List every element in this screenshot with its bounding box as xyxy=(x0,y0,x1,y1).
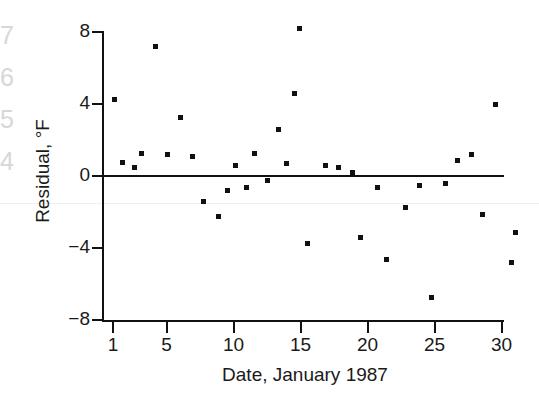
x-tick-label: 1 xyxy=(91,334,135,356)
data-point xyxy=(375,185,380,190)
data-point xyxy=(336,165,341,170)
data-point xyxy=(358,235,363,240)
data-point xyxy=(178,115,183,120)
y-axis-title-text: Residual, xyxy=(32,138,53,223)
data-point xyxy=(190,154,195,159)
data-point xyxy=(417,183,422,188)
data-point xyxy=(305,241,310,246)
data-point xyxy=(480,212,485,217)
y-axis-title-unit: °F xyxy=(32,119,53,138)
x-tick-mark xyxy=(501,322,503,333)
data-point xyxy=(233,163,238,168)
x-tick-label: 5 xyxy=(145,334,189,356)
y-tick-label: −8 xyxy=(50,308,90,330)
y-tick-label: 4 xyxy=(50,92,90,114)
x-tick-mark xyxy=(166,322,168,333)
x-tick-label: 25 xyxy=(413,334,457,356)
x-axis-title: Date, January 1987 xyxy=(140,364,470,386)
plot-area: 840−4−8 151015202530 Date, January 1987 … xyxy=(0,0,539,404)
x-tick-mark xyxy=(112,322,114,333)
data-point xyxy=(244,185,249,190)
y-tick-mark xyxy=(92,103,103,105)
y-tick-mark xyxy=(92,175,103,177)
x-tick-mark xyxy=(300,322,302,333)
zero-reference-line xyxy=(102,175,504,177)
data-point xyxy=(276,127,281,132)
data-point xyxy=(265,178,270,183)
data-point xyxy=(112,97,117,102)
data-point xyxy=(153,44,158,49)
x-tick-mark xyxy=(434,322,436,333)
y-tick-label: −4 xyxy=(50,236,90,258)
data-point xyxy=(403,205,408,210)
data-point xyxy=(429,295,434,300)
x-axis-line xyxy=(102,320,504,322)
data-point xyxy=(132,165,137,170)
y-tick-label: 0 xyxy=(50,164,90,186)
data-point xyxy=(455,158,460,163)
y-axis-title: Residual, °F xyxy=(32,56,54,286)
x-tick-label: 15 xyxy=(279,334,323,356)
data-point xyxy=(120,160,125,165)
y-tick-mark xyxy=(92,247,103,249)
data-point xyxy=(252,151,257,156)
scatter-plot-figure: 7 6 5 4 840−4−8 151015202530 Date, Janua… xyxy=(0,0,539,404)
x-tick-label: 10 xyxy=(212,334,256,356)
y-tick-label: 8 xyxy=(50,20,90,42)
data-point xyxy=(165,152,170,157)
y-tick-mark xyxy=(92,31,103,33)
data-point xyxy=(297,26,302,31)
x-tick-mark xyxy=(367,322,369,333)
data-point xyxy=(225,188,230,193)
y-tick-label-wrap: −8 xyxy=(42,308,90,330)
x-tick-label: 30 xyxy=(480,334,524,356)
data-point xyxy=(443,181,448,186)
data-point xyxy=(284,161,289,166)
y-tick-mark xyxy=(92,319,103,321)
y-tick-label-wrap: 8 xyxy=(42,20,90,42)
data-point xyxy=(139,151,144,156)
data-point xyxy=(509,260,514,265)
x-tick-label: 20 xyxy=(346,334,390,356)
data-point xyxy=(216,214,221,219)
data-point xyxy=(201,199,206,204)
data-point xyxy=(493,102,498,107)
data-point xyxy=(292,91,297,96)
data-point xyxy=(513,230,518,235)
x-tick-mark xyxy=(233,322,235,333)
data-point xyxy=(469,152,474,157)
data-point xyxy=(350,170,355,175)
data-point xyxy=(323,163,328,168)
data-point xyxy=(384,257,389,262)
